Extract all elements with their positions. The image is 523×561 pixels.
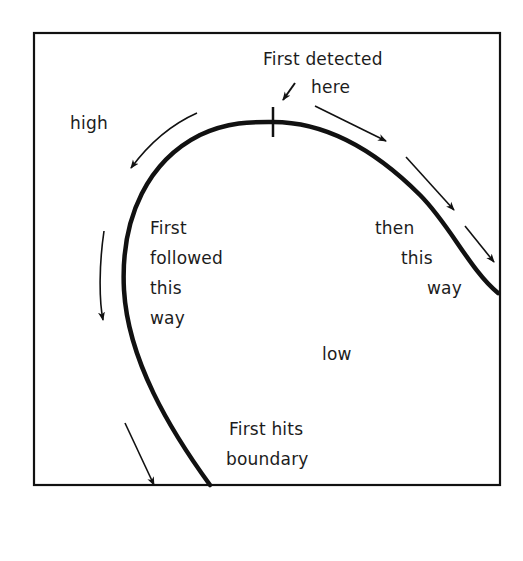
arrow-left-lower (125, 423, 154, 485)
arrow-right-upper (315, 106, 386, 141)
label-first-detected-line2: here (263, 72, 383, 102)
arrow-left-middle (100, 231, 104, 320)
arrow-right-middle (406, 157, 454, 210)
label-this-line: this (375, 243, 462, 273)
label-high: high (70, 108, 108, 138)
label-first-detected-line1: First detected (263, 44, 383, 74)
label-first-followed-line1: First (150, 213, 223, 243)
label-first-hits-line2: boundary (226, 444, 309, 474)
label-first-followed-line3: this (150, 273, 223, 303)
label-first-hits-boundary: First hits boundary (226, 414, 309, 474)
label-low: low (322, 339, 352, 369)
label-first-followed-line4: way (150, 303, 223, 333)
label-first-detected: First detected here (263, 44, 383, 102)
label-first-followed-line2: followed (150, 243, 223, 273)
label-first-hits-line1: First hits (226, 414, 309, 444)
label-then-this-way: then this way (375, 213, 462, 303)
label-way-line: way (375, 273, 462, 303)
label-first-followed: First followed this way (150, 213, 223, 333)
label-then-line: then (375, 213, 462, 243)
